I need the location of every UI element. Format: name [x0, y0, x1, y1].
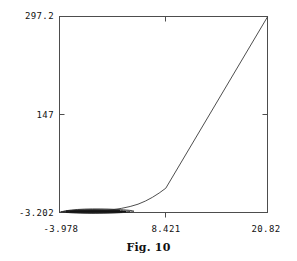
- plot-frame: [60, 17, 268, 213]
- y-axis-label-mid: 147: [4, 110, 54, 120]
- y-axis-label-bottom: -3.202: [4, 208, 54, 218]
- x-axis-label-mid: 8.421: [140, 224, 192, 234]
- curve-main: [60, 17, 267, 212]
- figure-container: 297.2 147 -3.202 -3.978 8.421 20.82 Fig.…: [0, 0, 297, 261]
- plot-area: [0, 0, 297, 261]
- figure-caption: Fig. 10: [0, 241, 297, 254]
- x-axis-label-left: -3.978: [35, 224, 87, 234]
- y-axis-label-top: 297.2: [4, 11, 54, 21]
- x-axis-label-right: 20.82: [240, 224, 292, 234]
